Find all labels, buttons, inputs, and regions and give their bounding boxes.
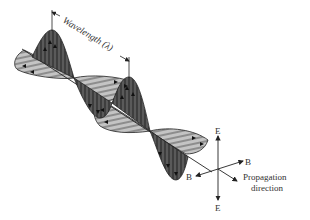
magnetic-field-wave <box>15 50 208 154</box>
legend-propagation-line2: direction <box>251 183 283 193</box>
wavelength-label: Wavelength (λ) <box>60 15 114 54</box>
legend-e-up: E <box>215 126 221 136</box>
legend-b-right: B <box>245 157 251 167</box>
legend-e-down: E <box>215 203 221 213</box>
legend-b-left: B <box>186 172 192 182</box>
electric-field-wave <box>22 30 204 180</box>
em-wave-diagram: Wavelength (λ) E E B B Propagation direc… <box>0 0 310 220</box>
legend-propagation-line1: Propagation <box>243 172 287 182</box>
